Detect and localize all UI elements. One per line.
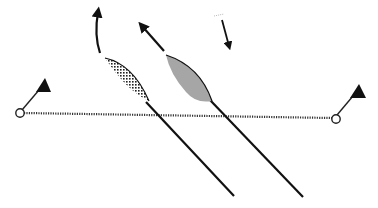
left-mark-buoy-icon <box>16 109 24 117</box>
sailing-diagram <box>0 0 378 208</box>
boat-b-track <box>210 100 303 197</box>
left-mark-flag-icon <box>36 78 51 92</box>
start-line <box>24 113 332 118</box>
boat-b-hull <box>166 55 212 102</box>
right-mark-pole <box>337 96 353 115</box>
right-mark <box>332 84 366 123</box>
left-mark-pole <box>22 90 39 110</box>
boat-a-hull <box>105 58 149 101</box>
right-mark-flag-icon <box>350 84 366 98</box>
left-mark <box>16 78 51 117</box>
boat-a-heading-arrow-icon <box>96 12 100 53</box>
wind-arrow-tail-icon <box>214 14 224 16</box>
wind-direction-arrow-icon <box>222 20 229 46</box>
right-mark-buoy-icon <box>332 115 340 123</box>
boat-b-heading-arrow-icon <box>142 26 164 51</box>
